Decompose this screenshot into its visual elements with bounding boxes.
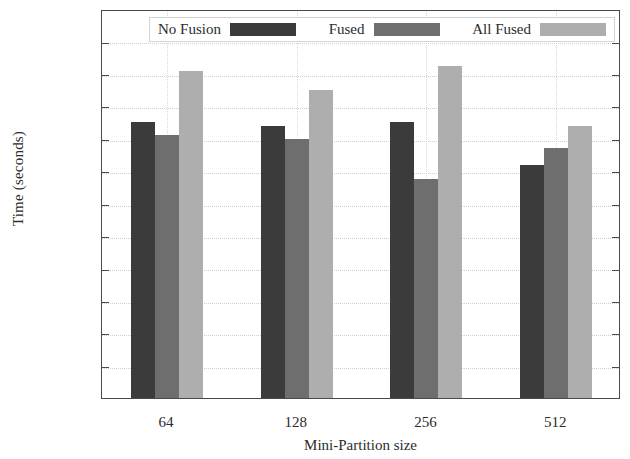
legend-swatch-all-fused	[540, 23, 606, 36]
x-tick-label-64: 64	[126, 414, 206, 431]
y-tick-20	[102, 334, 109, 335]
legend-label-no-fusion: No Fusion	[158, 21, 230, 38]
plot-area: No Fusion Fused All Fused	[101, 10, 620, 399]
legend-entry-all-fused: All Fused	[472, 21, 606, 38]
bar-all-fused-128	[309, 90, 333, 398]
x-tick-label-512: 512	[515, 414, 595, 431]
bar-fused-128	[285, 139, 309, 398]
bar-fused-64	[155, 135, 179, 398]
y-tick-60	[102, 205, 109, 206]
x-tick-label-128: 128	[256, 414, 336, 431]
y-tick-50	[102, 237, 109, 238]
x-axis-title: Mini-Partition size	[101, 437, 620, 454]
y-axis-title: Time (seconds)	[10, 89, 27, 269]
y-tick-30	[102, 302, 109, 303]
y-tick-right-70	[612, 172, 619, 173]
legend-label-all-fused: All Fused	[472, 21, 540, 38]
bar-chart-figure: Time (seconds) 0102030405060708090100110…	[0, 0, 630, 459]
y-tick-right-90	[612, 107, 619, 108]
y-tick-80	[102, 140, 109, 141]
bar-no-fusion-256	[390, 122, 414, 398]
bar-no-fusion-512	[520, 165, 544, 398]
bar-no-fusion-128	[261, 126, 285, 398]
y-tick-right-10	[612, 367, 619, 368]
bar-fused-256	[414, 179, 438, 398]
legend-label-fused: Fused	[329, 21, 374, 38]
y-tick-90	[102, 107, 109, 108]
gridline-110	[102, 43, 619, 45]
y-tick-right-40	[612, 270, 619, 271]
y-tick-right-100	[612, 75, 619, 76]
bar-all-fused-64	[179, 71, 203, 398]
y-tick-100	[102, 75, 109, 76]
legend-swatch-fused	[374, 23, 440, 36]
y-tick-right-80	[612, 140, 619, 141]
legend-swatch-no-fusion	[230, 23, 296, 36]
y-tick-right-110	[612, 43, 619, 44]
legend-entry-fused: Fused	[329, 21, 440, 38]
y-tick-10	[102, 367, 109, 368]
chart-legend: No Fusion Fused All Fused	[149, 17, 615, 42]
y-tick-right-50	[612, 237, 619, 238]
y-tick-right-30	[612, 302, 619, 303]
y-tick-110	[102, 43, 109, 44]
x-tick-label-256: 256	[385, 414, 465, 431]
y-tick-right-60	[612, 205, 619, 206]
y-tick-right-20	[612, 334, 619, 335]
y-tick-40	[102, 270, 109, 271]
bar-all-fused-256	[438, 66, 462, 398]
bar-fused-512	[544, 148, 568, 398]
bar-all-fused-512	[568, 126, 592, 398]
bar-no-fusion-64	[131, 122, 155, 398]
y-tick-70	[102, 172, 109, 173]
legend-entry-no-fusion: No Fusion	[158, 21, 296, 38]
